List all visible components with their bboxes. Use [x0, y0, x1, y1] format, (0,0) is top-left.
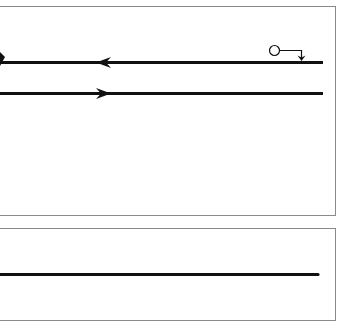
- source-circle-icon: [270, 46, 280, 56]
- source-connector: [280, 51, 302, 59]
- diagram-canvas: [0, 0, 357, 321]
